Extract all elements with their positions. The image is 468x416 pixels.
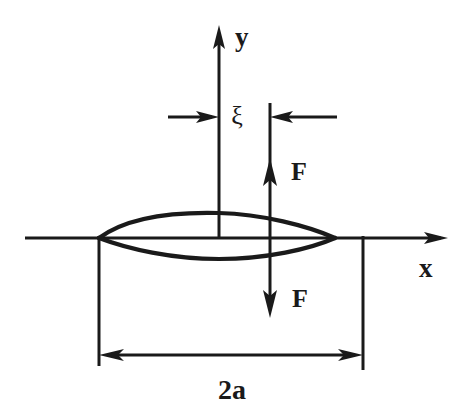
x-axis-group [25, 232, 448, 244]
force-line-group [263, 103, 277, 318]
crack-upper-edge [99, 213, 335, 238]
xi-dimension-group [168, 111, 337, 123]
x-axis-label: x [419, 253, 433, 283]
crack-length-label: 2a [218, 374, 246, 405]
force-up-label: F [291, 157, 307, 186]
offset-label: ξ [231, 101, 243, 130]
crack-diagram-figure: y x ξ F F 2a [0, 0, 468, 416]
y-axis-label: y [235, 22, 249, 52]
diagram-canvas: y x ξ F F 2a [0, 0, 468, 416]
y-axis-group [213, 25, 225, 238]
crack-lower-edge [99, 238, 335, 259]
force-down-label: F [292, 284, 308, 313]
crack-lens-group [99, 213, 335, 259]
crack-length-dimension-group [99, 236, 363, 370]
